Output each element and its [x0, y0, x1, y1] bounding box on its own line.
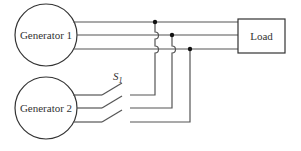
- generator-2: Generator 2: [15, 77, 77, 139]
- circuit-diagram: Generator 1 Load Generator 2 S1: [0, 0, 301, 151]
- switch-blade-b: [102, 96, 122, 108]
- load: Load: [238, 19, 285, 53]
- switch-label: S1: [113, 70, 123, 85]
- junction-dot-c: [188, 47, 192, 51]
- tie-lead-a: [130, 22, 159, 95]
- junction-dot-b: [170, 33, 174, 37]
- switch-blade-c: [102, 110, 122, 122]
- generator-1: Generator 1: [15, 4, 77, 66]
- generator-1-label: Generator 1: [20, 29, 72, 41]
- tie-lead-c: [130, 49, 190, 122]
- generator-2-leads: [73, 95, 102, 122]
- switch-s1[interactable]: S1: [102, 70, 123, 122]
- tie-leads: [130, 22, 190, 122]
- junction-dot-a: [153, 20, 157, 24]
- tie-lead-b: [130, 35, 176, 108]
- generator-2-label: Generator 2: [20, 102, 72, 114]
- load-label: Load: [250, 30, 273, 42]
